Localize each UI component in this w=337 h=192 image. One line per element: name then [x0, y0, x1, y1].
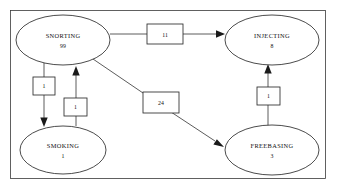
edge-label-snorting-to-injecting: 11 [147, 24, 183, 44]
node-freebasing-label: FREEBASING [251, 142, 294, 149]
node-snorting[interactable]: SNORTING 99 [16, 15, 110, 65]
node-smoking-label: SMOKING [47, 142, 79, 149]
node-smoking-value: 1 [62, 153, 65, 159]
arrowhead-injecting-bottom [264, 64, 271, 74]
node-freebasing[interactable]: FREEBASING 3 [225, 125, 319, 175]
node-snorting-label: SNORTING [46, 32, 81, 39]
edge-label-freebasing-to-injecting: 1 [257, 87, 280, 105]
edge-label-text: 1 [74, 104, 77, 110]
node-smoking-ellipse[interactable] [20, 126, 106, 174]
arrowhead-smoking-top [40, 118, 47, 128]
node-injecting[interactable]: INJECTING 8 [225, 15, 319, 65]
edge-label-text: 24 [158, 100, 164, 106]
edge-label-snorting-to-smoking: 1 [33, 77, 55, 95]
edge-smoking-to-snorting [72, 66, 79, 126]
node-freebasing-ellipse[interactable] [225, 125, 319, 175]
arrowhead-snorting-bottom [72, 66, 79, 76]
diagram-svg: 11 24 1 1 1 SNORTING 99 INJECTING 8 [0, 0, 337, 192]
node-snorting-ellipse[interactable] [16, 15, 110, 65]
diagram-canvas: 11 24 1 1 1 SNORTING 99 INJECTING 8 [0, 0, 337, 192]
edge-label-smoking-to-snorting: 1 [64, 98, 87, 116]
node-injecting-value: 8 [271, 43, 274, 49]
node-freebasing-value: 3 [271, 153, 274, 159]
node-injecting-ellipse[interactable] [225, 15, 319, 65]
edge-label-text: 1 [267, 93, 270, 99]
edge-label-text: 1 [43, 83, 46, 89]
edge-label-text: 11 [162, 32, 168, 38]
node-snorting-value: 99 [60, 43, 66, 49]
node-smoking[interactable]: SMOKING 1 [20, 126, 106, 174]
arrowhead-injecting-left [216, 30, 225, 38]
node-injecting-label: INJECTING [254, 32, 290, 39]
edge-label-snorting-to-freebasing: 24 [143, 92, 179, 113]
